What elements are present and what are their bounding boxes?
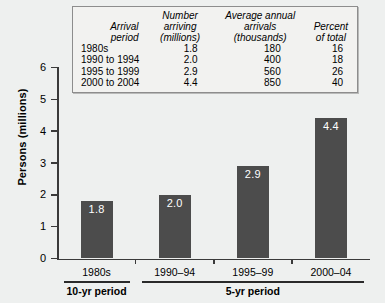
y-tick-label-0: 0: [16, 253, 46, 263]
x-tick-2: [213, 259, 215, 264]
y-tick-1: [51, 226, 57, 228]
table-cell: 1990 to 1994: [73, 54, 145, 65]
bar-value-label: 2.0: [159, 197, 191, 209]
y-tick-6: [51, 67, 57, 69]
table-row: 1990 to 19942.040018: [73, 54, 357, 65]
table-cell: 40: [305, 77, 357, 88]
data-table-body: 1980s1.8180161990 to 19942.0400181995 to…: [73, 43, 357, 89]
table-cell: 180: [216, 43, 305, 54]
table-cell: 1.8: [145, 43, 216, 54]
x-category-label-2000–04: 2000–04: [292, 266, 370, 278]
table-cell: 560: [216, 66, 305, 77]
bar-1995–99: 2.9: [237, 166, 269, 258]
table-cell: 2.9: [145, 66, 216, 77]
y-tick-3: [51, 162, 57, 164]
data-table-panel: Arrival period Number arriving (millions…: [72, 6, 358, 93]
x-category-label-1980s: 1980s: [58, 266, 136, 278]
y-axis-line: [57, 67, 59, 260]
table-cell: 16: [305, 43, 357, 54]
table-row: 1980s1.818016: [73, 43, 357, 54]
table-header-row: Arrival period Number arriving (millions…: [73, 10, 357, 43]
table-cell: 2000 to 2004: [73, 77, 145, 88]
table-cell: 400: [216, 54, 305, 65]
y-tick-label-1: 1: [16, 221, 46, 231]
x-category-label-1995–99: 1995–99: [214, 266, 292, 278]
data-table-header: Arrival period Number arriving (millions…: [73, 10, 357, 43]
table-row: 2000 to 20044.485040: [73, 77, 357, 88]
bar-value-label: 1.8: [81, 203, 113, 215]
bar-value-label: 2.9: [237, 168, 269, 180]
y-tick-2: [51, 194, 57, 196]
group-bracket-line: [64, 281, 130, 283]
y-tick-4: [51, 130, 57, 132]
table-header-arrival-period: Arrival period: [73, 10, 145, 43]
bar-1980s: 1.8: [81, 201, 113, 258]
group-bracket-line: [142, 281, 364, 283]
x-tick-3: [291, 259, 293, 264]
x-category-label-1990–94: 1990–94: [136, 266, 214, 278]
table-cell: 4.4: [145, 77, 216, 88]
table-cell: 26: [305, 66, 357, 77]
group-label-10-yr-period: 10-yr period: [64, 285, 130, 297]
y-tick-0: [51, 258, 57, 260]
y-tick-label-6: 6: [16, 62, 46, 72]
y-tick-label-5: 5: [16, 94, 46, 104]
y-tick-label-3: 3: [16, 158, 46, 168]
x-tick-1: [135, 259, 137, 264]
data-table: Arrival period Number arriving (millions…: [73, 10, 357, 89]
y-tick-5: [51, 99, 57, 101]
table-header-average-annual-arrivals: Average annual arrivals (thousands): [216, 10, 305, 43]
table-cell: 850: [216, 77, 305, 88]
bar-2000–04: 4.4: [315, 118, 347, 258]
table-cell: 1980s: [73, 43, 145, 54]
table-cell: 2.0: [145, 54, 216, 65]
table-cell: 18: [305, 54, 357, 65]
group-label-5-yr-period: 5-yr period: [142, 285, 364, 297]
bar-chart-figure: Persons (millions) 0123456 1.82.02.94.4 …: [0, 0, 385, 303]
table-cell: 1995 to 1999: [73, 66, 145, 77]
y-tick-label-2: 2: [16, 189, 46, 199]
table-header-number-arriving: Number arriving (millions): [145, 10, 216, 43]
table-header-percent-of-total: Percent of total: [305, 10, 357, 43]
bar-value-label: 4.4: [315, 120, 347, 132]
table-row: 1995 to 19992.956026: [73, 66, 357, 77]
bar-1990–94: 2.0: [159, 195, 191, 259]
y-tick-label-4: 4: [16, 126, 46, 136]
